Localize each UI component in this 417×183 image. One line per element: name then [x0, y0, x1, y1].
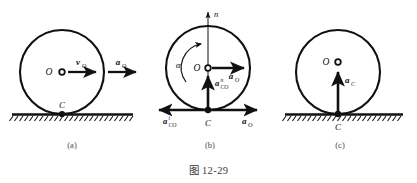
tangential-accel-label-main: a: [163, 116, 168, 126]
panel-caption-b: (b): [190, 140, 230, 150]
accel-center-label-sub: O: [235, 76, 240, 83]
base-accel-label-main: a: [242, 116, 247, 126]
ground-line-a: [10, 115, 134, 122]
figure-title: 图 12-29: [0, 162, 417, 177]
accel-center-label-main: a: [229, 71, 234, 81]
contact-label-a: C: [59, 100, 66, 110]
axis-n: n: [208, 9, 218, 110]
center-label-a: O: [46, 67, 53, 77]
contact-point-marker: [205, 107, 211, 113]
ground-line-c: [283, 115, 404, 122]
label-tangential-relative-acceleration: a CO t: [163, 115, 177, 128]
label-base-point-acceleration: a O: [242, 116, 253, 128]
velocity-label-main: v: [76, 57, 81, 67]
tangential-accel-label-sub: CO: [169, 122, 178, 128]
base-accel-label-sub: O: [248, 121, 253, 128]
center-label-c: O: [323, 57, 330, 67]
figure-root: O C v: [0, 0, 417, 183]
center-label-b: O: [194, 63, 201, 73]
normal-accel-label-sub: CO: [221, 84, 230, 90]
contact-label-c: C: [335, 122, 342, 132]
angular-acceleration-label: α: [176, 60, 181, 70]
accel-label-main: a: [116, 57, 121, 67]
panel-caption-c: (c): [320, 140, 360, 150]
tangential-accel-label-sup: t: [169, 115, 171, 121]
vector-velocity-of-center: v O: [68, 57, 96, 72]
vector-acceleration-of-contact-point: a C: [338, 72, 356, 114]
axis-label-n: n: [214, 9, 218, 19]
center-point-marker: [335, 59, 341, 65]
contact-accel-label-main: a: [345, 75, 350, 85]
panel-b: n α O a O a CO n C: [145, 0, 275, 140]
panel-a: O C v: [0, 0, 145, 140]
panel-c: O a C C: [275, 0, 417, 140]
vector-acceleration-of-center: a O: [108, 57, 136, 72]
center-point-marker: [59, 69, 65, 75]
velocity-label-sub: O: [82, 62, 87, 69]
contact-accel-label-sub: C: [351, 80, 356, 87]
center-point-marker: [205, 65, 211, 71]
contact-label-b: C: [205, 118, 212, 128]
accel-label-sub: O: [122, 62, 127, 69]
normal-accel-label-sup: n: [221, 77, 224, 83]
normal-accel-label-main: a: [215, 78, 220, 88]
panel-caption-a: (a): [52, 140, 92, 150]
